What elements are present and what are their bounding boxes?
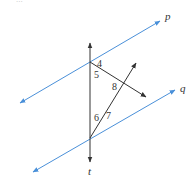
angle-7-label: 7 <box>106 110 111 121</box>
angle-6-label: 6 <box>94 112 99 123</box>
label-q: q <box>180 82 186 94</box>
label-t: t <box>88 165 92 177</box>
angle-5-label: 5 <box>94 69 99 80</box>
line-q <box>33 90 175 172</box>
angle-4-label: 4 <box>97 58 102 69</box>
label-p: p <box>164 10 171 22</box>
parallel-lines-diagram: p q t 4 5 6 7 8 <box>0 0 196 181</box>
angle-8-label: 8 <box>112 81 117 92</box>
